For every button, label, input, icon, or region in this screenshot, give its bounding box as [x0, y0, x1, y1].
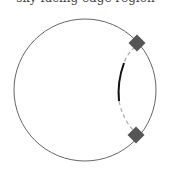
dashed-connector-bottom	[119, 101, 134, 131]
solid-inner-arc	[119, 63, 124, 101]
diamond-marker-bottom	[128, 127, 145, 144]
diagram-canvas	[0, 0, 171, 172]
dashed-connector-top	[124, 47, 135, 63]
